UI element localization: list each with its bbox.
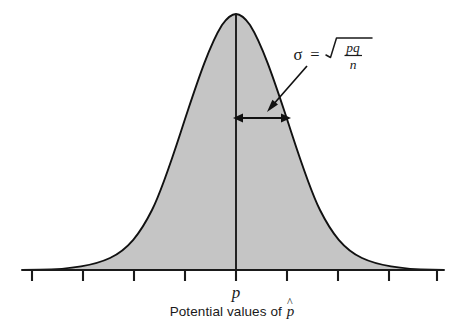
p-hat-symbol: ^p	[286, 303, 295, 319]
hat-accent-icon: ^	[287, 296, 293, 308]
x-axis-caption: Potential values of ^p	[0, 303, 464, 320]
mean-axis-label: p	[231, 283, 241, 302]
formula-numerator: pq	[345, 40, 360, 55]
sigma-symbol: σ	[294, 45, 303, 64]
equals-symbol: =	[310, 45, 319, 64]
formula-denominator: n	[350, 57, 357, 72]
caption-prefix: Potential values of	[170, 304, 286, 319]
normal-distribution-figure: σ = pq n p	[0, 0, 464, 332]
